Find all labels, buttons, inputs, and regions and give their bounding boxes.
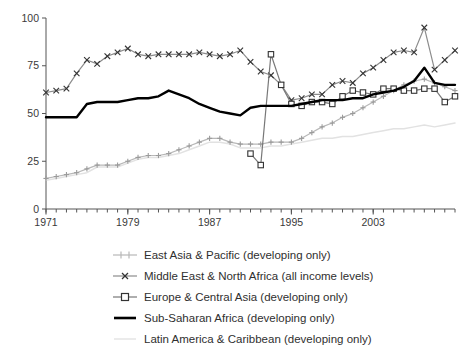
plus-marker-icon (112, 248, 138, 262)
legend-label-east-asia-pacific: East Asia & Pacific (developing only) (144, 248, 331, 262)
legend-label-middle-east-north-africa: Middle East & North Africa (all income l… (144, 269, 373, 283)
x-tick-label: 1987 (198, 216, 222, 228)
chart-figure: 025507510019711979198719952003 East Asia… (0, 0, 464, 350)
legend-item-europe-central-asia[interactable]: Europe & Central Asia (developing only) (112, 288, 452, 306)
legend-label-europe-central-asia: Europe & Central Asia (developing only) (144, 290, 348, 304)
y-tick-label: 25 (27, 155, 39, 167)
solid-line-marker-icon (112, 311, 138, 325)
legend-item-east-asia-pacific[interactable]: East Asia & Pacific (developing only) (112, 246, 452, 264)
y-tick-label: 0 (33, 203, 39, 215)
x-tick-label: 1971 (34, 216, 58, 228)
chart-legend: East Asia & Pacific (developing only) Mi… (112, 246, 452, 348)
legend-item-middle-east-north-africa[interactable]: Middle East & North Africa (all income l… (112, 267, 452, 285)
y-tick-label: 100 (21, 12, 39, 24)
x-tick-label: 1979 (116, 216, 140, 228)
square-marker-icon (112, 290, 138, 304)
legend-label-latin-america-caribbean: Latin America & Caribbean (developing on… (144, 332, 372, 346)
x-tick-label: 1995 (280, 216, 304, 228)
legend-item-latin-america-caribbean[interactable]: Latin America & Caribbean (developing on… (112, 330, 452, 348)
faint-line-marker-icon (112, 332, 138, 346)
y-tick-label: 50 (27, 107, 39, 119)
line-chart-svg: 025507510019711979198719952003 (0, 0, 464, 240)
x-tick-label: 2003 (362, 216, 386, 228)
legend-item-sub-saharan-africa[interactable]: Sub-Saharan Africa (developing only) (112, 309, 452, 327)
legend-label-sub-saharan-africa: Sub-Saharan Africa (developing only) (144, 311, 335, 325)
y-tick-label: 75 (27, 59, 39, 71)
cross-marker-icon (112, 269, 138, 283)
plot-area: 025507510019711979198719952003 (0, 0, 464, 240)
